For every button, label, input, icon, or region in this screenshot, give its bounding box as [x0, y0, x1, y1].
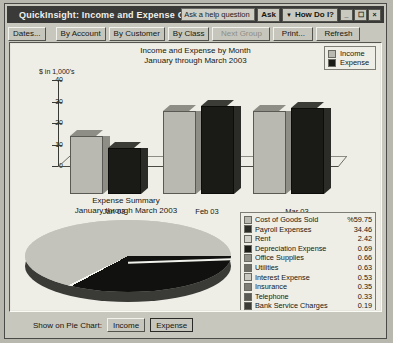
legend-swatch-income: [328, 50, 336, 58]
toolbar-button-by-account[interactable]: By Account: [56, 27, 106, 41]
row-swatch-icon: [244, 216, 252, 224]
pie-income-button[interactable]: Income: [107, 318, 145, 332]
row-value: 0.35: [358, 282, 372, 292]
table-row[interactable]: Cost of Goods Sold %59.75: [244, 215, 372, 225]
row-value: 0.53: [358, 273, 372, 283]
row-swatch-icon: [244, 254, 252, 262]
row-value: %59.75: [347, 215, 372, 225]
row-swatch-icon: [244, 225, 252, 233]
row-label: Cost of Goods Sold: [255, 215, 347, 225]
row-swatch-icon: [244, 302, 252, 310]
row-value: 34.46: [354, 225, 372, 235]
row-label: Payroll Expenses: [255, 225, 354, 235]
row-label: Telephone: [255, 292, 358, 302]
chevron-down-icon: ▼: [286, 12, 292, 18]
row-value: 0.69: [358, 244, 372, 254]
row-label: Rent: [255, 234, 358, 244]
bar-income-feb-03[interactable]: [163, 111, 196, 194]
help-search-input[interactable]: Ask a help question: [181, 8, 255, 21]
bar-income-mar-03-front: [253, 111, 286, 194]
bar-chart: $ in 1,000's 40 30 20 10 0: [11, 66, 346, 194]
row-label: Insurance: [255, 282, 358, 292]
pie-chart-top: [25, 220, 231, 292]
toolbar-button-dates[interactable]: Dates...: [8, 27, 46, 41]
y-tick-mark-30: [52, 102, 62, 103]
bar-expense-jan-03[interactable]: [108, 148, 141, 194]
toolbar-button-print[interactable]: Print...: [273, 27, 313, 41]
toolbar-button-by-customer[interactable]: By Customer: [109, 27, 165, 41]
how-do-i-dropdown[interactable]: ▼ How Do I?: [282, 8, 338, 22]
row-label: Bank Service Charges: [255, 301, 358, 310]
table-row[interactable]: Utilities 0.63: [244, 263, 372, 273]
table-row[interactable]: Telephone 0.33: [244, 292, 372, 302]
graph-canvas: Income and Expense by Month January thro…: [11, 44, 380, 310]
row-swatch-icon: [244, 273, 252, 281]
row-value: 0.63: [358, 263, 372, 273]
row-label: Interest Expense: [255, 273, 358, 283]
legend-label-income: Income: [340, 49, 365, 58]
bar-expense-mar-03[interactable]: [291, 108, 324, 194]
table-row[interactable]: Interest Expense 0.53: [244, 273, 372, 283]
maximize-icon[interactable]: ☐: [354, 9, 367, 21]
row-value: 0.19: [358, 301, 372, 310]
application-window: QuickInsight: Income and Expense Graph A…: [4, 3, 387, 339]
title-bar: QuickInsight: Income and Expense Graph A…: [7, 6, 384, 23]
table-row[interactable]: Insurance 0.35: [244, 282, 372, 292]
bar-group-feb-03: Feb 03: [159, 94, 255, 194]
row-value: 0.33: [358, 292, 372, 302]
y-tick-mark-20: [52, 123, 62, 124]
y-axis-label: $ in 1,000's: [39, 68, 75, 75]
bar-expense-feb-03[interactable]: [201, 106, 234, 194]
minimize-icon[interactable]: _: [340, 9, 353, 21]
row-label: Utilities: [255, 263, 358, 273]
row-value: 0.66: [358, 253, 372, 263]
toolbar-button-by-class[interactable]: By Class: [168, 27, 210, 41]
row-swatch-icon: [244, 283, 252, 291]
table-row[interactable]: Payroll Expenses 34.46: [244, 225, 372, 235]
bar-expense-jan-03-side: [141, 148, 148, 194]
bar-group-jan-03: Jan 03: [66, 94, 162, 194]
pie-chart-title: Expense Summary January through March 20…: [17, 196, 235, 216]
row-swatch-icon: [244, 235, 252, 243]
legend-item-income: Income: [328, 49, 372, 58]
bar-expense-mar-03-front: [291, 108, 324, 194]
expense-summary-table: Cost of Goods Sold %59.75 Payroll Expens…: [240, 212, 376, 310]
pie-chart[interactable]: [25, 220, 231, 306]
row-swatch-icon: [244, 293, 252, 301]
close-icon[interactable]: ×: [368, 9, 381, 21]
table-row[interactable]: Office Supplies 0.66: [244, 253, 372, 263]
window-title: QuickInsight: Income and Expense Graph: [7, 10, 205, 20]
graph-client-area: Income and Expense by Month January thro…: [9, 42, 382, 312]
pie-chart-title-line1: Expense Summary: [17, 196, 235, 206]
pie-chart-title-line2: January through March 2003: [17, 206, 235, 216]
show-on-pie-chart-label: Show on Pie Chart:: [33, 321, 102, 330]
toolbar-button-refresh[interactable]: Refresh: [316, 27, 360, 41]
row-swatch-icon: [244, 264, 252, 272]
bar-expense-mar-03-side: [324, 108, 331, 194]
bar-income-jan-03-front: [70, 136, 103, 194]
bar-income-feb-03-front: [163, 111, 196, 194]
row-label: Office Supplies: [255, 253, 358, 263]
y-tick-mark-40: [52, 80, 62, 81]
bar-expense-jan-03-front: [108, 148, 141, 194]
table-row[interactable]: Depreciation Expense 0.69: [244, 244, 372, 254]
how-do-i-label: How Do I?: [295, 10, 334, 19]
bar-group-mar-03: Mar 03: [249, 94, 345, 194]
ask-button[interactable]: Ask: [257, 8, 280, 22]
bar-income-mar-03[interactable]: [253, 111, 286, 194]
toolbar-button-next-group: Next Group: [212, 27, 270, 41]
pie-slices: [25, 220, 231, 292]
pie-expense-button[interactable]: Expense: [150, 318, 193, 332]
window-buttons: _ ☐ ×: [340, 9, 381, 21]
table-row[interactable]: Bank Service Charges 0.19: [244, 301, 372, 310]
toolbar: Dates... By Account By Customer By Class…: [8, 26, 383, 41]
bar-expense-feb-03-front: [201, 106, 234, 194]
bar-expense-feb-03-side: [234, 106, 241, 194]
row-value: 2.42: [358, 234, 372, 244]
table-row[interactable]: Rent 2.42: [244, 234, 372, 244]
y-tick-mark-10: [52, 145, 62, 146]
bar-income-jan-03[interactable]: [70, 136, 103, 194]
row-swatch-icon: [244, 245, 252, 253]
row-label: Depreciation Expense: [255, 244, 358, 254]
title-bar-controls: Ask a help question Ask ▼ How Do I? _ ☐ …: [181, 6, 383, 23]
